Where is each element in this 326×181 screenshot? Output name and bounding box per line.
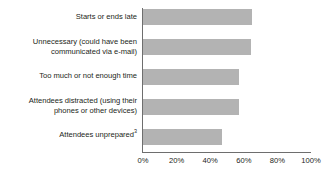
category-axis-line [142, 8, 143, 153]
bar-row [143, 99, 239, 115]
bar-row [143, 9, 252, 25]
category-label: Unnecessary (could have been communicate… [0, 37, 137, 56]
bar-unnecessary [143, 39, 251, 55]
bar-row [143, 129, 222, 145]
value-axis-line [143, 152, 311, 153]
category-label-line2: phones or other devices) [54, 106, 137, 115]
bar-attendees-distracted [143, 99, 239, 115]
bar-row [143, 69, 239, 85]
tick-label: 100% [291, 156, 326, 166]
category-label-footnote-marker: 3 [134, 128, 137, 134]
tick-label-text: 80% [270, 156, 285, 165]
category-label-line1: Too much or not enough time [39, 71, 137, 80]
bar-starts-or-ends-late [143, 9, 252, 25]
category-label: Starts or ends late [0, 12, 137, 22]
plot-area [143, 8, 311, 152]
value-axis-tick-labels: 0% 20% 40% 60% 80% 100% [0, 156, 320, 170]
category-axis-labels: Starts or ends late Unnecessary (could h… [0, 8, 137, 152]
tick-label-text: 60% [236, 156, 251, 165]
category-label-line1: Starts or ends late [76, 12, 137, 21]
category-label-line1: Attendees distracted (using their [29, 96, 137, 105]
category-label-line1: Attendees unprepared [59, 130, 134, 139]
tick-label-text: 40% [203, 156, 218, 165]
category-label-line2: communicated via e-mail) [51, 47, 137, 56]
category-label-line1: Unnecessary (could have been [33, 37, 137, 46]
category-label: Too much or not enough time [0, 71, 137, 81]
bar-attendees-unprepared [143, 129, 222, 145]
tick-label-text: 100% [301, 156, 320, 165]
tick-label-text: 0% [138, 156, 149, 165]
bar-too-much-or-not-enough-time [143, 69, 239, 85]
category-label: Attendees unprepared3 [0, 130, 137, 140]
bar-row [143, 39, 251, 55]
tick-label-text: 20% [169, 156, 184, 165]
category-label: Attendees distracted (using their phones… [0, 96, 137, 115]
